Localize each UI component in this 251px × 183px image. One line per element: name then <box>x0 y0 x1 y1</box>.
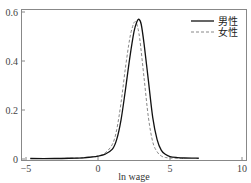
x-tick-label: 5 <box>168 163 173 174</box>
y-axis: 00.20.40.6 <box>6 7 26 165</box>
x-tick-label: 0 <box>96 163 101 174</box>
x-axis-title: ln wage <box>118 171 150 182</box>
x-tick-label: 10 <box>237 163 247 174</box>
x-tick-label: −5 <box>21 163 32 174</box>
legend-male-label: 男性 <box>218 15 238 27</box>
male-density-line <box>30 19 198 158</box>
y-tick-label: 0.2 <box>6 105 19 116</box>
legend-female-label: 女性 <box>218 26 238 38</box>
density-chart: 00.20.40.6 −50510 男性 女性 ln wage <box>0 0 251 183</box>
y-tick-label: 0 <box>13 154 18 165</box>
legend: 男性 女性 <box>191 15 238 38</box>
y-tick-label: 0.6 <box>6 7 19 18</box>
female-density-line <box>30 22 184 159</box>
y-tick-label: 0.4 <box>6 56 19 67</box>
